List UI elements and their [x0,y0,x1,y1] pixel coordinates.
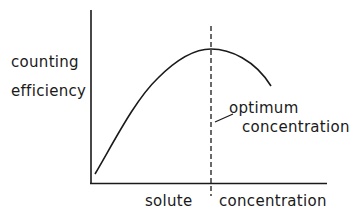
annotation-label-line1: optimum [229,101,299,116]
x-axis-label-concentration: concentration [219,194,327,209]
y-axis-label-line2: efficiency [11,84,86,99]
annotation-label-line2: concentration [242,120,350,135]
y-axis-label-line1: counting [11,55,79,70]
x-axis-label-solute: solute [145,194,193,209]
